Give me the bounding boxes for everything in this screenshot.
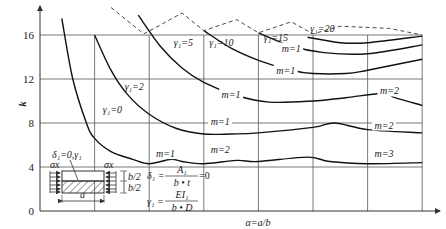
mode-label: m=2 xyxy=(374,120,393,131)
stress-arrows-right xyxy=(106,171,116,193)
series-label: γ₁=15 xyxy=(264,32,288,43)
formula-delta-lhs: δ₁ = xyxy=(147,170,164,181)
series-curve--1-20 xyxy=(308,36,423,43)
mode-label: m=2 xyxy=(211,144,230,155)
y-tick-label: 16 xyxy=(23,29,35,41)
stress-arrows-left xyxy=(50,171,60,193)
series-label: γ₁=10 xyxy=(209,37,233,48)
mode-label: m=1 xyxy=(156,148,175,159)
sigma-right-label: σx xyxy=(104,159,114,170)
b-half-bottom-label: b/2 xyxy=(128,182,141,193)
y-tick-label: 8 xyxy=(29,117,35,129)
x-axis-label: α=a/b xyxy=(246,217,271,228)
series-label: γ₁=2 xyxy=(125,81,144,92)
formula-gamma-lhs: γ₁ = xyxy=(147,196,164,207)
series-label: γ₁=0 xyxy=(103,104,122,115)
formula-delta-denominator: b • t xyxy=(174,177,191,188)
curves xyxy=(62,8,422,164)
formula-gamma-denominator: b • D xyxy=(172,202,194,213)
formula-delta-rhs: =0 xyxy=(199,170,210,181)
mode-label: m=1 xyxy=(222,89,241,100)
mode-label: m=1 xyxy=(282,43,301,54)
sigma-left-label: σx xyxy=(50,159,60,170)
b-half-top-label: b/2 xyxy=(128,171,141,182)
y-tick-label: 0 xyxy=(29,205,35,217)
mode-label: m=2 xyxy=(380,85,399,96)
mode-label: m=1 xyxy=(276,65,295,76)
series-label: γ₁=20 xyxy=(310,23,334,34)
series-label: γ₁=5 xyxy=(174,37,193,48)
y-axis-label: k xyxy=(16,101,28,107)
y-tick-label: 4 xyxy=(29,161,35,173)
mode-label: m=1 xyxy=(211,116,230,127)
formula-gamma-numerator: EI₁ xyxy=(175,189,189,200)
plate-top xyxy=(62,171,104,181)
formula-delta-numerator: A₁ xyxy=(176,164,187,175)
y-tick-label: 12 xyxy=(23,73,34,85)
mode-label: m=3 xyxy=(374,148,393,159)
formula-block: δ₁ = A₁ b • t =0 γ₁ = EI₁ b • D xyxy=(147,164,210,213)
a-label: a xyxy=(80,189,85,200)
buckling-coefficient-chart: 0481216 γ₁=0γ₁=2γ₁=5γ₁=10γ₁=15γ₁=20m=1m=… xyxy=(0,0,446,229)
